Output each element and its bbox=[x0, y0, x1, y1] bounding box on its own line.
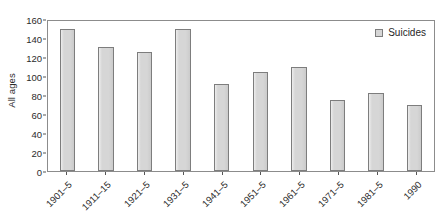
x-axis-tick: 1931–5 bbox=[163, 172, 202, 223]
bar-slot bbox=[125, 21, 164, 171]
x-axis-tick-label: 1990 bbox=[401, 179, 424, 202]
x-axis-tick: 1901–5 bbox=[47, 172, 86, 223]
y-axis-ticks: 020406080100120140160 bbox=[18, 0, 46, 180]
bar-slot bbox=[357, 21, 396, 171]
x-axis-tick: 1911–15 bbox=[86, 172, 125, 223]
x-axis-tick-mark bbox=[299, 172, 300, 175]
y-axis-tick-mark bbox=[43, 58, 46, 59]
x-axis-ticks: 1901–51911–151921–51931–51941–51951–5196… bbox=[47, 172, 435, 223]
y-axis-tick-mark bbox=[43, 134, 46, 135]
y-axis-tick-label: 40 bbox=[31, 129, 42, 140]
x-axis-tick-mark bbox=[105, 172, 106, 175]
bar-slot bbox=[280, 21, 319, 171]
y-axis-tick-label: 60 bbox=[31, 110, 42, 121]
bar-slot bbox=[164, 21, 203, 171]
y-axis-title-text: All ages bbox=[6, 73, 17, 108]
bar-slot bbox=[87, 21, 126, 171]
y-axis-tick-label: 20 bbox=[31, 148, 42, 159]
x-axis-tick: 1990 bbox=[396, 172, 435, 223]
y-axis-tick-label: 100 bbox=[26, 72, 42, 83]
y-axis-tick-mark bbox=[43, 77, 46, 78]
bar-slot bbox=[395, 21, 434, 171]
x-axis-tick-mark bbox=[183, 172, 184, 175]
x-axis-tick-label: 1971–5 bbox=[316, 179, 346, 209]
x-axis-tick-label: 1901–5 bbox=[44, 179, 74, 209]
x-axis-tick: 1971–5 bbox=[319, 172, 358, 223]
legend-swatch-icon bbox=[375, 29, 383, 37]
x-axis-tick: 1981–5 bbox=[357, 172, 396, 223]
x-axis-tick-label: 1921–5 bbox=[122, 179, 152, 209]
y-axis-tick-label: 160 bbox=[26, 15, 42, 26]
bar bbox=[175, 29, 190, 172]
y-axis-tick-mark bbox=[43, 153, 46, 154]
bar bbox=[98, 47, 113, 171]
bar bbox=[291, 67, 306, 172]
x-axis-tick: 1951–5 bbox=[241, 172, 280, 223]
bar-slot bbox=[202, 21, 241, 171]
y-axis-tick-label: 140 bbox=[26, 34, 42, 45]
y-axis-tick-label: 80 bbox=[31, 91, 42, 102]
bar bbox=[368, 93, 383, 171]
x-axis-tick: 1961–5 bbox=[280, 172, 319, 223]
y-axis-tick-mark bbox=[43, 20, 46, 21]
y-axis-tick-mark bbox=[43, 172, 46, 173]
y-axis-tick-label: 0 bbox=[37, 167, 42, 178]
x-axis-tick-mark bbox=[416, 172, 417, 175]
x-axis-tick-mark bbox=[377, 172, 378, 175]
bar bbox=[214, 84, 229, 171]
y-axis-tick-mark bbox=[43, 39, 46, 40]
x-axis-tick-mark bbox=[222, 172, 223, 175]
plot-area: Suicides bbox=[47, 20, 435, 172]
bar bbox=[137, 52, 152, 171]
bar-series bbox=[48, 21, 434, 171]
bar bbox=[253, 72, 268, 171]
bar-slot bbox=[318, 21, 357, 171]
bar-slot bbox=[48, 21, 87, 171]
y-axis-tick-mark bbox=[43, 115, 46, 116]
bar-slot bbox=[241, 21, 280, 171]
x-axis-tick-label: 1961–5 bbox=[277, 179, 307, 209]
bar bbox=[407, 105, 422, 172]
legend: Suicides bbox=[375, 27, 426, 38]
x-axis-tick-mark bbox=[260, 172, 261, 175]
x-axis-tick: 1921–5 bbox=[125, 172, 164, 223]
y-axis-tick-label: 120 bbox=[26, 53, 42, 64]
bar bbox=[60, 29, 75, 171]
x-axis-tick-mark bbox=[338, 172, 339, 175]
chart-figure: All ages 020406080100120140160 Suicides … bbox=[0, 0, 448, 223]
bar bbox=[330, 100, 345, 171]
x-axis-tick-label: 1941–5 bbox=[199, 179, 229, 209]
x-axis-tick-label: 1931–5 bbox=[160, 179, 190, 209]
x-axis-tick-label: 1951–5 bbox=[238, 179, 268, 209]
x-axis-tick-mark bbox=[66, 172, 67, 175]
x-axis-tick-mark bbox=[144, 172, 145, 175]
legend-label: Suicides bbox=[388, 27, 426, 38]
x-axis-tick-label: 1981–5 bbox=[354, 179, 384, 209]
x-axis-tick: 1941–5 bbox=[202, 172, 241, 223]
y-axis-tick-mark bbox=[43, 96, 46, 97]
